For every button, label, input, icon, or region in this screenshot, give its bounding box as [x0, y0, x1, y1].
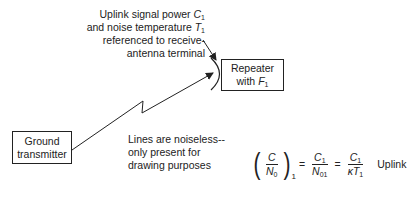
uplink-cn-equation: ( C N0 ) 1 = C1 N01 = C1 κT1 Uplink	[252, 149, 406, 179]
repeater-box: Repeater with F1	[221, 59, 284, 91]
uplink-label: Uplink	[377, 158, 406, 170]
antenna-icon	[211, 58, 220, 90]
ground-transmitter-box: Ground transmitter	[12, 131, 72, 164]
uplink-annotation: Uplink signal power C1 and noise tempera…	[80, 8, 205, 60]
noiseless-note: Lines are noiseless-- only present for d…	[128, 133, 225, 172]
